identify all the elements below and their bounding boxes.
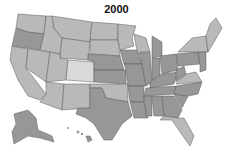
state-HI-islands: [81, 133, 83, 135]
state-NM: [62, 84, 90, 110]
state-HI-islands: [77, 131, 80, 134]
state-HI-islands: [67, 127, 69, 129]
state-AR: [128, 86, 144, 102]
us-choropleth-map: [0, 0, 233, 154]
state-CO: [66, 60, 94, 82]
state-NY: [178, 36, 208, 52]
state-TN: [144, 86, 176, 96]
state-MI: [152, 36, 162, 58]
state-KS: [94, 70, 126, 84]
state-PA: [176, 52, 200, 66]
state-ND: [90, 22, 118, 40]
state-HI: [86, 136, 92, 142]
state-SD: [90, 40, 120, 56]
state-MN: [118, 24, 136, 50]
state-FL: [160, 116, 194, 146]
state-WY: [60, 38, 90, 60]
state-AK: [12, 110, 54, 144]
state-new-england: [206, 18, 222, 52]
state-NC: [174, 82, 202, 96]
state-OH: [160, 54, 178, 74]
